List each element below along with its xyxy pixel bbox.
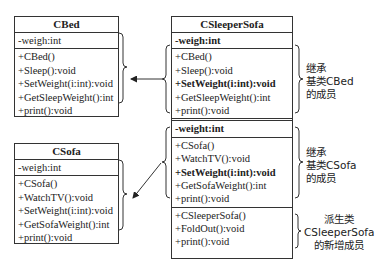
brace-right-cbed — [295, 45, 303, 113]
annotation-cbed-members: 继承 基类CBed 的成员 — [306, 62, 354, 101]
annotation-line: 基类CBed — [306, 75, 354, 88]
annotation-line: 的新增成员 — [304, 239, 375, 252]
brace-cbed — [119, 33, 127, 103]
brace-left-cbed — [162, 45, 170, 113]
brace-right-new — [295, 214, 301, 248]
annotation-line: CSleeperSofa — [304, 226, 375, 239]
annotation-csofa-members: 继承 基类CSofa 的成员 — [306, 146, 357, 185]
brace-left-csofa — [162, 127, 170, 198]
brace-right-csofa — [295, 127, 303, 198]
annotation-line: 继承 — [306, 146, 357, 159]
annotation-line: 继承 — [306, 62, 354, 75]
annotation-line: 基类CSofa — [306, 159, 357, 172]
arrow-to-csofa — [133, 163, 161, 198]
brace-csofa — [119, 160, 127, 230]
annotation-line: 的成员 — [306, 88, 354, 101]
annotation-line: 的成员 — [306, 172, 357, 185]
annotation-new-members: 派生类 CSleeperSofa 的新增成员 — [304, 213, 375, 252]
annotation-line: 派生类 — [304, 213, 375, 226]
